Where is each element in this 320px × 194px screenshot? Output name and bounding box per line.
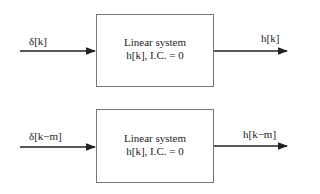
box-title-top: Linear system (97, 36, 213, 49)
box-params-bottom: h[k], I.C. = 0 (97, 145, 213, 158)
input-label-bottom: δ[k−m] (29, 130, 62, 142)
output-label-bottom: h[k−m] (243, 128, 276, 140)
input-label-top: δ[k] (29, 35, 47, 47)
linear-system-box-bottom: Linear system h[k], I.C. = 0 (96, 109, 214, 183)
box-params-top: h[k], I.C. = 0 (97, 49, 213, 62)
output-label-top: h[k] (261, 32, 279, 44)
box-title-bottom: Linear system (97, 132, 213, 145)
linear-system-box-top: Linear system h[k], I.C. = 0 (96, 14, 214, 87)
